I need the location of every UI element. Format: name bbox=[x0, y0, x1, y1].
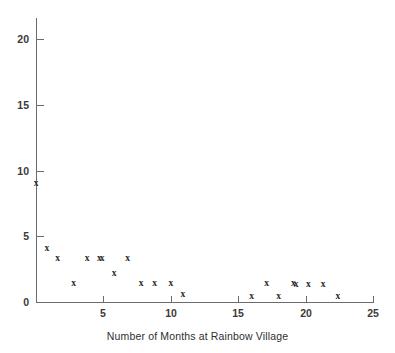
x-tick-label-5: 5 bbox=[83, 308, 123, 319]
data-point: x bbox=[274, 291, 283, 302]
x-axis-line bbox=[36, 302, 373, 303]
x-axis-title: Number of Months at Rainbow Village bbox=[0, 330, 395, 342]
y-tick-label-5: 5 bbox=[1, 231, 36, 242]
data-point: x bbox=[178, 289, 187, 300]
data-point: x bbox=[166, 278, 175, 289]
x-tick-label-15: 15 bbox=[218, 308, 258, 319]
y-tick-20 bbox=[37, 39, 44, 40]
x-tick-label-25: 25 bbox=[353, 308, 393, 319]
y-tick-label-20: 20 bbox=[1, 34, 36, 45]
x-tick-10 bbox=[171, 296, 172, 303]
x-tick-label-10: 10 bbox=[151, 308, 191, 319]
x-tick-25 bbox=[373, 296, 374, 303]
data-point: x bbox=[333, 291, 342, 302]
y-tick-label-0: 0 bbox=[1, 297, 36, 308]
y-axis-line bbox=[36, 18, 37, 303]
data-point: x bbox=[262, 278, 271, 289]
data-point: x bbox=[319, 279, 328, 290]
data-point: x bbox=[98, 253, 107, 264]
y-tick-5 bbox=[37, 236, 44, 237]
data-point: x bbox=[42, 243, 51, 254]
x-tick-15 bbox=[238, 296, 239, 303]
data-point: x bbox=[137, 278, 146, 289]
data-point: x bbox=[110, 268, 119, 279]
data-point: x bbox=[150, 278, 159, 289]
y-tick-10 bbox=[37, 171, 44, 172]
data-point: x bbox=[69, 278, 78, 289]
y-tick-label-15: 15 bbox=[1, 100, 36, 111]
data-point: x bbox=[32, 178, 41, 189]
x-tick-label-20: 20 bbox=[286, 308, 326, 319]
data-point: x bbox=[247, 291, 256, 302]
data-point: x bbox=[304, 279, 313, 290]
y-tick-label-10: 10 bbox=[1, 166, 36, 177]
data-point: x bbox=[53, 253, 62, 264]
scatter-plot-figure: 05101520 510152025 xxxxxxxxxxxxxxxxxxxxx… bbox=[0, 0, 395, 353]
x-tick-20 bbox=[306, 296, 307, 303]
data-point: x bbox=[123, 253, 132, 264]
y-tick-15 bbox=[37, 105, 44, 106]
x-tick-5 bbox=[103, 296, 104, 303]
data-point: x bbox=[83, 253, 92, 264]
plot-area: 05101520 510152025 xxxxxxxxxxxxxxxxxxxxx bbox=[0, 0, 395, 353]
data-point: x bbox=[292, 279, 301, 290]
